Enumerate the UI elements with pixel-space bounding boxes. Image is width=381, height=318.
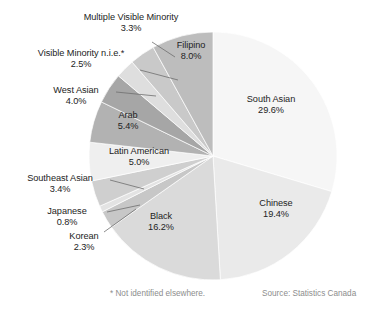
footnote-not-identified-elsewhere: * Not identified elsewhere. — [110, 289, 205, 298]
slice-label-chinese-pct: 19.4% — [241, 209, 311, 220]
slice-label-south-asian: South Asian 29.6% — [229, 94, 313, 117]
slice-label-korean-name: Korean — [69, 231, 98, 241]
slice-label-arab-pct: 5.4% — [104, 121, 152, 132]
slice-label-filipino: Filipino 8.0% — [160, 40, 222, 63]
slice-label-filipino-name: Filipino — [177, 40, 206, 50]
slice-label-chinese-name: Chinese — [259, 198, 292, 208]
slice-label-latin-american-name: Latin American — [109, 146, 169, 156]
slice-label-japanese-pct: 0.8% — [22, 217, 112, 228]
slice-label-korean: Korean 2.3% — [44, 231, 124, 254]
slice-label-arab-name: Arab — [118, 110, 137, 120]
slice-label-west-asian-pct: 4.0% — [24, 96, 128, 107]
slice-label-southeast-asian: Southeast Asian 3.4% — [5, 173, 115, 196]
slice-label-filipino-pct: 8.0% — [160, 51, 222, 62]
slice-label-black-name: Black — [150, 211, 172, 221]
slice-label-black: Black 16.2% — [133, 211, 189, 234]
slice-label-southeast-asian-name: Southeast Asian — [27, 173, 93, 183]
slice-label-arab: Arab 5.4% — [104, 110, 152, 133]
slice-label-west-asian: West Asian 4.0% — [24, 85, 128, 108]
slice-label-latin-american-pct: 5.0% — [96, 157, 182, 168]
slice-label-multiple-visible-minority: Multiple Visible Minority 3.3% — [56, 12, 206, 35]
slice-label-visible-minority-nie-name: Visible Minority n.i.e.* — [38, 48, 124, 58]
slice-label-visible-minority-nie-pct: 2.5% — [10, 59, 152, 70]
slice-label-multiple-visible-minority-pct: 3.3% — [56, 23, 206, 34]
slice-label-west-asian-name: West Asian — [53, 85, 98, 95]
slice-label-japanese-name: Japanese — [47, 206, 86, 216]
slice-label-south-asian-pct: 29.6% — [229, 105, 313, 116]
slice-label-visible-minority-nie: Visible Minority n.i.e.* 2.5% — [10, 48, 152, 71]
pie-chart: South Asian 29.6% Chinese 19.4% Black 16… — [0, 0, 381, 318]
slice-label-southeast-asian-pct: 3.4% — [5, 184, 115, 195]
slice-label-black-pct: 16.2% — [133, 222, 189, 233]
slice-label-multiple-visible-minority-name: Multiple Visible Minority — [84, 12, 179, 22]
slice-label-south-asian-name: South Asian — [247, 94, 296, 104]
slice-label-japanese: Japanese 0.8% — [22, 206, 112, 229]
slice-label-latin-american: Latin American 5.0% — [96, 146, 182, 169]
slice-label-korean-pct: 2.3% — [44, 242, 124, 253]
source-credit: Source: Statistics Canada — [262, 289, 356, 298]
slice-label-chinese: Chinese 19.4% — [241, 198, 311, 221]
